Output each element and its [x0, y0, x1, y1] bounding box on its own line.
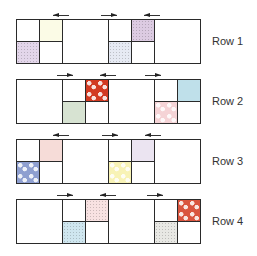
fabric-square — [131, 19, 155, 42]
pressing-arrow-left-icon — [53, 13, 69, 17]
fabric-square — [131, 139, 155, 162]
pressing-arrow-left-icon — [100, 73, 116, 77]
plain-square — [131, 161, 155, 184]
plain-square — [39, 161, 63, 184]
plain-square — [108, 19, 132, 42]
pressing-arrow-left-icon — [53, 133, 69, 137]
pressing-arrow-left-icon — [144, 13, 160, 17]
fabric-square — [39, 139, 63, 162]
pressing-arrow-left-icon — [100, 193, 116, 197]
plain-square — [131, 41, 155, 64]
fabric-square — [85, 79, 109, 102]
plain-square — [16, 19, 40, 42]
pressing-arrow-left-icon — [145, 133, 161, 137]
large-square — [108, 199, 155, 244]
pressing-arrow-right-icon — [145, 73, 161, 77]
fabric-square — [108, 161, 132, 184]
fabric-square — [16, 161, 40, 184]
plain-square — [85, 101, 109, 124]
plain-square — [62, 79, 86, 102]
quilt-row-1 — [16, 19, 200, 63]
fabric-square — [39, 19, 63, 42]
pressing-arrow-right-icon — [57, 73, 73, 77]
large-square — [62, 19, 109, 64]
row-label: Row 1 — [212, 35, 243, 47]
plain-square — [154, 79, 178, 102]
fabric-square — [177, 199, 201, 222]
large-square — [108, 79, 155, 124]
row-label: Row 2 — [212, 95, 243, 107]
plain-square — [177, 221, 201, 244]
fabric-square — [108, 41, 132, 64]
plain-square — [85, 221, 109, 244]
pressing-arrow-right-icon — [101, 13, 117, 17]
large-square — [154, 139, 201, 184]
fabric-square — [85, 199, 109, 222]
large-square — [16, 79, 63, 124]
large-square — [16, 199, 63, 244]
plain-square — [39, 41, 63, 64]
plain-square — [108, 139, 132, 162]
large-square — [62, 139, 109, 184]
fabric-square — [16, 41, 40, 64]
row-label: Row 3 — [212, 155, 243, 167]
quilt-row-2 — [16, 79, 200, 123]
fabric-square — [62, 101, 86, 124]
fabric-square — [154, 101, 178, 124]
large-square — [154, 19, 201, 64]
quilt-row-3 — [16, 139, 200, 183]
pressing-arrow-right-icon — [57, 193, 73, 197]
plain-square — [154, 199, 178, 222]
fabric-square — [177, 79, 201, 102]
fabric-square — [62, 221, 86, 244]
plain-square — [62, 199, 86, 222]
plain-square — [177, 101, 201, 124]
quilt-row-4 — [16, 199, 200, 243]
pressing-arrow-right-icon — [102, 133, 118, 137]
plain-square — [16, 139, 40, 162]
fabric-square — [154, 221, 178, 244]
row-label: Row 4 — [212, 215, 243, 227]
pressing-arrow-right-icon — [147, 193, 163, 197]
